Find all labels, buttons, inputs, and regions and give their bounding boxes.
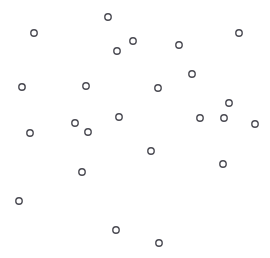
scatter-plot-svg — [0, 0, 270, 258]
scatter-plot-canvas — [0, 0, 270, 258]
